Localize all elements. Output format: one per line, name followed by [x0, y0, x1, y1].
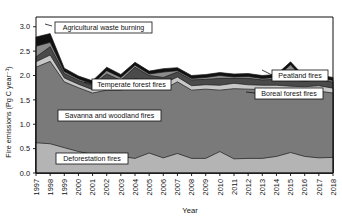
y-tick-label: 0.0 [20, 169, 30, 178]
x-tick-label: 2012 [244, 179, 253, 195]
x-tick-label: 2009 [201, 179, 210, 195]
x-tick-label: 2008 [187, 179, 196, 195]
x-tick-label: 2014 [272, 179, 281, 195]
y-tick-label: 2.0 [20, 71, 30, 80]
series-callout-label: Peatland fires [278, 72, 322, 80]
callout-leader-line [45, 24, 52, 26]
x-tick-label: 2011 [230, 179, 239, 195]
y-tick-label: 1.0 [20, 120, 30, 129]
y-axis-tick-group: 0.00.51.01.52.02.53.0 [20, 22, 36, 177]
x-tick-label: 2013 [258, 179, 267, 195]
fire-emissions-stacked-area-chart: 0.00.51.01.52.02.53.0 199719981999200020… [0, 0, 342, 222]
x-tick-label: 2006 [159, 179, 168, 195]
y-tick-label: 2.5 [20, 47, 30, 56]
x-tick-label: 1999 [60, 179, 69, 195]
series-callout-label: Savanna and woodland fires [65, 112, 155, 120]
x-tick-label: 2002 [102, 179, 111, 195]
x-axis-tick-group: 1997199819992000200120022003200420052006… [32, 173, 338, 195]
series-callout-label: Deforestation fires [63, 155, 121, 163]
y-axis-label: Fire emissions (Pg C year⁻¹) [4, 66, 13, 157]
series-callout-label: Boreal forest fires [261, 90, 317, 98]
x-tick-label: 1997 [32, 179, 41, 195]
x-tick-label: 2017 [315, 179, 324, 195]
x-tick-label: 1998 [46, 179, 55, 195]
x-tick-label: 2015 [286, 179, 295, 195]
series-callout-label: Temperate forest fires [97, 81, 166, 89]
callout-leader-line [262, 70, 272, 75]
x-tick-label: 2000 [74, 179, 83, 195]
x-tick-label: 2003 [117, 179, 126, 195]
x-axis-label: Year [182, 206, 198, 215]
y-tick-label: 3.0 [20, 22, 30, 31]
x-tick-label: 2016 [300, 179, 309, 195]
x-tick-label: 2010 [216, 179, 225, 195]
y-tick-label: 1.5 [20, 96, 30, 105]
x-tick-label: 2004 [131, 179, 140, 195]
x-tick-label: 2018 [329, 179, 338, 195]
x-tick-label: 2001 [88, 179, 97, 195]
series-callout-label: Agricultural waste burning [63, 24, 145, 32]
x-tick-label: 2005 [145, 179, 154, 195]
y-tick-label: 0.5 [20, 144, 30, 153]
stacked-area-series-group [36, 34, 333, 173]
x-tick-label: 2007 [173, 179, 182, 195]
